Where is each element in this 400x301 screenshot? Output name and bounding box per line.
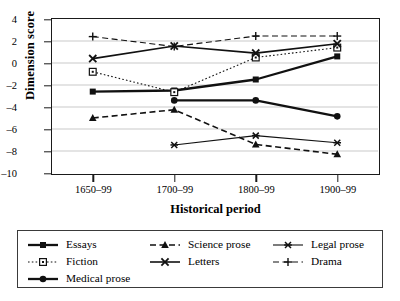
y-tick-mark <box>44 173 51 174</box>
legend-label: Science prose <box>182 239 250 250</box>
legend-marker-filled-triangle-icon <box>148 238 182 252</box>
y-tick-label: –6 <box>0 124 17 135</box>
x-tick-mark <box>93 175 94 182</box>
y-tick-label: 0 <box>0 58 17 69</box>
y-tick-mark <box>44 107 51 108</box>
legend-label: Letters <box>182 256 219 267</box>
legend-label: Essays <box>60 239 97 250</box>
legend-item-science-prose[interactable]: Science prose <box>148 236 250 253</box>
x-tick-mark <box>337 175 338 182</box>
y-tick-mark <box>44 151 51 152</box>
series-canvas <box>52 19 378 173</box>
y-axis-title: Dimension score <box>23 0 38 116</box>
legend-marker-asterisk-icon <box>271 238 305 252</box>
legend-marker-plus-icon <box>271 255 305 269</box>
y-tick-label: 2 <box>0 36 17 47</box>
x-tick-label: 1900–99 <box>293 184 383 195</box>
series-science-prose <box>89 106 341 158</box>
y-tick-mark <box>44 85 51 86</box>
legend-item-essays[interactable]: Essays <box>26 236 97 253</box>
legend-label: Medical prose <box>60 273 130 284</box>
y-tick-mark <box>44 63 51 64</box>
legend-item-fiction[interactable]: Fiction <box>26 253 98 270</box>
series-medical-prose <box>171 97 341 120</box>
x-tick-label: 1800–99 <box>211 184 301 195</box>
legend-label: Fiction <box>60 256 98 267</box>
legend-item-drama[interactable]: Drama <box>271 253 342 270</box>
x-tick-mark <box>256 175 257 182</box>
legend-label: Legal prose <box>305 239 364 250</box>
legend-item-letters[interactable]: Letters <box>148 253 219 270</box>
y-tick-label: –10 <box>0 168 17 179</box>
y-tick-mark <box>44 41 51 42</box>
legend-marker-x-cross-icon <box>148 255 182 269</box>
legend-marker-filled-square-icon <box>26 238 60 252</box>
y-tick-label: 4 <box>0 14 17 25</box>
chart-area: Dimension score 420–2–4–6–8–10 1650–9917… <box>0 0 400 222</box>
y-tick-label: –4 <box>0 102 17 113</box>
y-tick-label: –8 <box>0 146 17 157</box>
x-axis-title: Historical period <box>51 202 380 217</box>
chart-legend: EssaysScience proseLegal proseFictionLet… <box>17 230 383 288</box>
y-tick-mark <box>44 19 51 20</box>
x-tick-mark <box>174 175 175 182</box>
series-essays <box>90 53 341 94</box>
plot-region <box>51 18 380 175</box>
legend-marker-filled-circle-icon <box>26 272 60 286</box>
y-tick-label: –2 <box>0 80 17 91</box>
legend-marker-open-square-icon <box>26 255 60 269</box>
legend-label: Drama <box>305 256 342 267</box>
chart-page: Dimension score 420–2–4–6–8–10 1650–9917… <box>0 0 400 301</box>
y-tick-mark <box>44 129 51 130</box>
series-fiction <box>89 44 340 95</box>
legend-item-legal-prose[interactable]: Legal prose <box>271 236 364 253</box>
legend-item-medical-prose[interactable]: Medical prose <box>26 270 130 287</box>
x-tick-label: 1700–99 <box>130 184 220 195</box>
x-tick-label: 1650–99 <box>48 184 138 195</box>
series-letters <box>89 40 341 62</box>
